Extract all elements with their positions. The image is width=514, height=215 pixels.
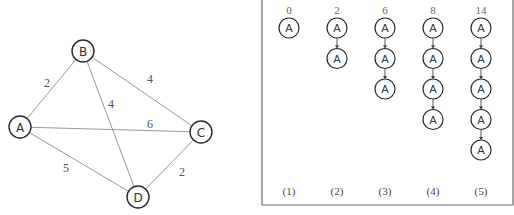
chain-node-label: A: [381, 83, 389, 96]
chain-column-4: 8AAAA(4): [423, 4, 443, 198]
chain-column-3: 6AAA(3): [375, 4, 395, 198]
edge-a-c: [20, 127, 201, 132]
chain-column-5: 14AAAAA(5): [471, 4, 491, 198]
chain-node-label: A: [477, 53, 485, 66]
graph-node-a: A: [9, 116, 31, 138]
chain-cost-label: 8: [430, 4, 436, 16]
edge-weight-a-b: 2: [44, 76, 50, 90]
diagram-canvas: 244652 ABCD 0A(1)2AA(2)6AAA(3)8AAAA(4)14…: [0, 0, 514, 215]
chain-cost-label: 14: [476, 4, 488, 16]
chain-step-label: (2): [331, 185, 344, 198]
chain-node-label: A: [429, 22, 437, 35]
chain-column-2: 2AA(2): [327, 4, 347, 198]
edge-weight-b-c: 4: [147, 72, 153, 86]
chain-node-label: A: [429, 83, 437, 96]
chain-step-label: (5): [475, 185, 488, 198]
edge-weight-b-d: 4: [108, 97, 114, 111]
edge-a-b: [20, 51, 83, 127]
graph-edge-weights: 244652: [44, 72, 185, 179]
chain-node-label: A: [285, 22, 293, 35]
edge-weight-a-c: 6: [147, 117, 153, 131]
chain-node-label: A: [429, 53, 437, 66]
chain-node-label: A: [333, 22, 341, 35]
graph-node-d: D: [127, 186, 149, 208]
chain-node-label: A: [333, 53, 341, 66]
edge-weight-a-d: 5: [63, 161, 69, 175]
chain-step-label: (1): [283, 185, 296, 198]
chain-step-label: (4): [427, 185, 440, 198]
chain-column-1: 0A(1): [279, 4, 299, 198]
chain-step-label: (3): [379, 185, 392, 198]
chain-columns: 0A(1)2AA(2)6AAA(3)8AAAA(4)14AAAAA(5): [279, 4, 491, 198]
chain-cost-label: 0: [286, 4, 292, 16]
edge-b-d: [83, 51, 138, 197]
chain-node-label: A: [477, 144, 485, 157]
chain-node-label: A: [477, 22, 485, 35]
node-label: B: [79, 45, 87, 59]
chain-cost-label: 2: [334, 4, 340, 16]
node-label: C: [197, 126, 205, 140]
chain-node-label: A: [429, 114, 437, 127]
edge-c-d: [138, 132, 201, 197]
edge-weight-c-d: 2: [179, 165, 185, 179]
chain-node-label: A: [381, 53, 389, 66]
edge-a-d: [20, 127, 138, 197]
chain-node-label: A: [381, 22, 389, 35]
node-label: D: [133, 191, 142, 205]
graph-edges: [20, 51, 201, 197]
edge-b-c: [83, 51, 201, 132]
graph-node-c: C: [190, 121, 212, 143]
chain-cost-label: 6: [382, 4, 388, 16]
chain-node-label: A: [477, 114, 485, 127]
chain-node-label: A: [477, 83, 485, 96]
node-label: A: [16, 121, 25, 135]
graph-node-b: B: [72, 40, 94, 62]
